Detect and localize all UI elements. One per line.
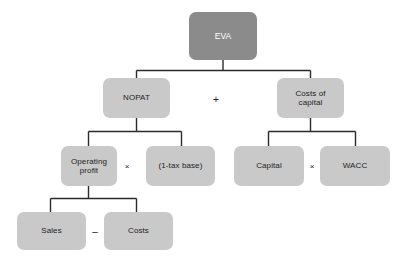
- operator-times-nopat: ×: [121, 159, 133, 173]
- eva-tree-diagram: EVA NOPAT Costs of capital + Operating p…: [0, 0, 400, 266]
- node-one-minus-tax-base[interactable]: (1-tax base): [146, 146, 215, 186]
- node-costs[interactable]: Costs: [104, 212, 173, 250]
- operator-plus: +: [208, 92, 224, 106]
- node-sales[interactable]: Sales: [17, 212, 86, 250]
- node-capital[interactable]: Capital: [234, 146, 304, 186]
- node-eva[interactable]: EVA: [189, 12, 257, 60]
- node-operating-profit[interactable]: Operating profit: [61, 146, 117, 186]
- node-costs-of-capital[interactable]: Costs of capital: [277, 78, 344, 118]
- node-wacc[interactable]: WACC: [320, 146, 390, 186]
- node-nopat[interactable]: NOPAT: [103, 78, 170, 118]
- operator-times-capital: ×: [306, 159, 318, 173]
- operator-minus: –: [88, 224, 102, 238]
